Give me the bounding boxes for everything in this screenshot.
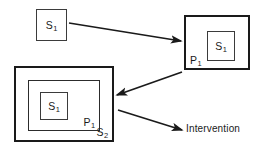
- state-box-inside-second-system-label: S1: [48, 101, 59, 112]
- state-box-inside-perturbed: S1: [207, 31, 235, 61]
- arrow-perturbed-to-second-system: [117, 72, 182, 95]
- state-box-inside-second-system: S1: [40, 92, 68, 120]
- arrow-second-system-to-intervention: [118, 110, 182, 130]
- state-box-initial-label: S1: [46, 20, 57, 31]
- perturbation-box-inside-second-system-label: P1: [84, 117, 95, 128]
- system-box-perturbed-label: P1: [190, 55, 201, 66]
- diagram-canvas: S1 P1 S1 S2 P1 S1 Intervention: [0, 0, 260, 154]
- state-box-inside-perturbed-label: S1: [215, 41, 226, 52]
- arrow-initial-to-perturbed: [69, 23, 181, 41]
- intervention-label: Intervention: [186, 124, 240, 134]
- state-box-initial: S1: [36, 9, 67, 41]
